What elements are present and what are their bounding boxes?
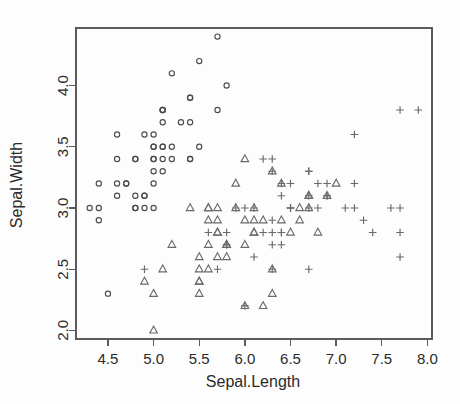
point-marker-triangle [259, 302, 267, 309]
point-marker-plus [241, 204, 249, 212]
point-marker-triangle [205, 204, 213, 211]
data-point-layer [87, 34, 422, 333]
point-marker-circle [142, 132, 147, 137]
point-marker-circle [151, 169, 156, 174]
point-marker-plus [268, 241, 276, 249]
point-marker-plus [250, 253, 258, 261]
point-marker-triangle [250, 228, 258, 235]
point-marker-plus [415, 106, 423, 114]
point-marker-plus [268, 229, 276, 237]
point-marker-triangle [150, 289, 158, 296]
point-marker-circle [160, 120, 165, 125]
point-marker-circle [215, 107, 220, 112]
point-marker-triangle [214, 204, 222, 211]
x-tick-label: 7.0 [326, 350, 347, 367]
point-marker-plus [287, 204, 295, 212]
point-marker-triangle [232, 179, 240, 186]
point-marker-circle [188, 95, 193, 100]
point-marker-triangle [214, 228, 222, 235]
point-marker-circle [142, 193, 147, 198]
point-marker-plus [351, 204, 359, 212]
point-marker-triangle [223, 253, 231, 260]
x-tick-label: 6.5 [280, 350, 301, 367]
point-marker-circle [151, 205, 156, 210]
x-tick-label: 7.5 [371, 350, 392, 367]
point-marker-circle [197, 58, 202, 63]
point-marker-plus [314, 204, 322, 212]
point-marker-plus [360, 216, 368, 224]
point-marker-circle [87, 205, 92, 210]
point-marker-plus [323, 180, 331, 188]
point-marker-plus [268, 216, 276, 224]
point-marker-circle [133, 205, 138, 210]
point-marker-plus [396, 229, 404, 237]
y-axis-title: Sepal.Width [8, 142, 25, 228]
point-marker-triangle [186, 204, 194, 211]
point-marker-triangle [205, 216, 213, 223]
point-marker-circle [188, 120, 193, 125]
point-marker-triangle [259, 216, 267, 223]
point-marker-plus [205, 229, 213, 237]
series-versicolor [141, 155, 340, 333]
y-tick-label: 2.5 [55, 259, 72, 280]
point-marker-circle [160, 107, 165, 112]
point-marker-circle [160, 169, 165, 174]
iris-scatter-plot: 4.55.05.56.06.57.07.58.0 2.02.53.03.54.0… [0, 0, 460, 404]
point-marker-triangle [241, 155, 249, 162]
point-marker-circle [215, 34, 220, 39]
y-tick-label: 4.0 [55, 75, 72, 96]
x-axis-title: Sepal.Length [206, 373, 300, 390]
point-marker-plus [351, 131, 359, 139]
point-marker-circle [96, 218, 101, 223]
point-marker-circle [133, 193, 138, 198]
point-marker-triangle [168, 241, 176, 248]
point-marker-plus [305, 265, 313, 273]
point-marker-circle [105, 291, 110, 296]
point-marker-circle [151, 156, 156, 161]
point-marker-triangle [314, 228, 322, 235]
x-axis-tick-labels: 4.55.05.56.06.57.07.58.0 [98, 350, 438, 367]
point-marker-triangle [205, 265, 213, 272]
point-marker-triangle [268, 289, 276, 296]
series-virginica [141, 106, 422, 310]
plot-box [76, 28, 432, 339]
point-marker-plus [259, 155, 267, 163]
point-marker-triangle [287, 228, 295, 235]
point-marker-triangle [241, 216, 249, 223]
x-tick-label: 5.0 [143, 350, 164, 367]
point-marker-circle [114, 193, 119, 198]
plot-frame [76, 28, 432, 339]
point-marker-circle [160, 156, 165, 161]
point-marker-triangle [250, 216, 258, 223]
point-marker-circle [151, 132, 156, 137]
point-marker-circle [151, 144, 156, 149]
point-marker-circle [169, 71, 174, 76]
point-marker-plus [396, 106, 404, 114]
scatter-plot-screenshot: 4.55.05.56.06.57.07.58.0 2.02.53.03.54.0… [0, 0, 460, 404]
point-marker-circle [197, 144, 202, 149]
point-marker-triangle [241, 241, 249, 248]
point-marker-plus [387, 204, 395, 212]
point-marker-plus [287, 180, 295, 188]
point-marker-plus [268, 155, 276, 163]
point-marker-plus [305, 167, 313, 175]
x-axis-ticks [108, 339, 427, 346]
series-setosa [87, 34, 229, 296]
point-marker-triangle [332, 179, 340, 186]
point-marker-circle [142, 205, 147, 210]
point-marker-triangle [205, 241, 213, 248]
point-marker-triangle [141, 277, 149, 284]
point-marker-triangle [278, 216, 286, 223]
point-marker-plus [396, 253, 404, 261]
point-marker-circle [169, 144, 174, 149]
point-marker-circle [133, 156, 138, 161]
x-tick-label: 5.5 [189, 350, 210, 367]
point-marker-triangle [159, 265, 167, 272]
point-marker-circle [114, 132, 119, 137]
point-marker-circle [96, 205, 101, 210]
point-marker-plus [214, 265, 222, 273]
point-marker-circle [114, 181, 119, 186]
point-marker-triangle [296, 216, 304, 223]
point-marker-plus [341, 204, 349, 212]
point-marker-plus [278, 241, 286, 249]
